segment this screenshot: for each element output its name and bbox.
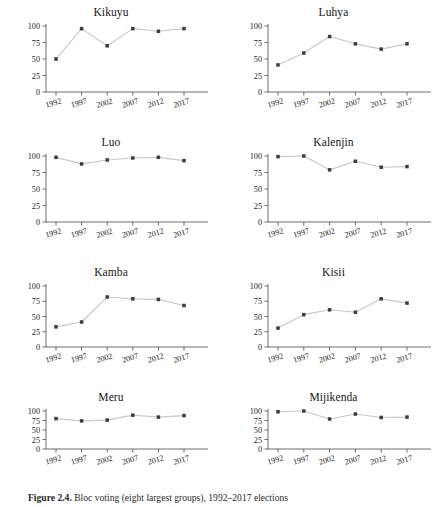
svg-text:1997: 1997 [292, 227, 310, 240]
svg-text:100: 100 [250, 22, 262, 31]
svg-text:2002: 2002 [95, 97, 113, 110]
svg-text:2007: 2007 [344, 352, 362, 365]
chart-meru: 0255075100199219972002200720122017 [0, 385, 222, 487]
svg-text:2007: 2007 [344, 454, 362, 467]
chart-luhya: 0255075100199219972002200720122017 [222, 0, 445, 130]
svg-text:50: 50 [254, 426, 262, 435]
svg-text:2017: 2017 [172, 454, 190, 467]
svg-text:100: 100 [28, 22, 40, 31]
svg-text:0: 0 [36, 88, 40, 97]
svg-text:2017: 2017 [172, 352, 190, 365]
panel-grid: Kikuyu 025507510019921997200220072012201… [0, 0, 445, 487]
svg-text:100: 100 [28, 407, 40, 416]
svg-text:50: 50 [32, 185, 40, 194]
svg-text:2002: 2002 [318, 454, 336, 467]
svg-text:2007: 2007 [344, 97, 362, 110]
svg-text:0: 0 [36, 445, 40, 454]
svg-text:75: 75 [254, 417, 262, 426]
panel-kikuyu: Kikuyu 025507510019921997200220072012201… [0, 0, 222, 130]
svg-text:100: 100 [28, 152, 40, 161]
svg-text:100: 100 [250, 282, 262, 291]
svg-text:2017: 2017 [395, 227, 413, 240]
svg-text:1992: 1992 [266, 97, 284, 110]
figure-container: Kikuyu 025507510019921997200220072012201… [0, 0, 445, 507]
svg-text:25: 25 [32, 202, 40, 211]
panel-kisii: Kisii 0255075100199219972002200720122017 [222, 260, 445, 385]
svg-text:2012: 2012 [369, 97, 387, 110]
svg-text:1992: 1992 [44, 97, 62, 110]
svg-text:2007: 2007 [344, 227, 362, 240]
svg-text:100: 100 [250, 407, 262, 416]
svg-text:1997: 1997 [70, 352, 88, 365]
svg-text:25: 25 [254, 202, 262, 211]
svg-text:25: 25 [254, 72, 262, 81]
svg-text:2002: 2002 [95, 352, 113, 365]
svg-text:100: 100 [250, 152, 262, 161]
svg-text:1992: 1992 [266, 227, 284, 240]
svg-text:50: 50 [32, 426, 40, 435]
chart-luo: 0255075100199219972002200720122017 [0, 130, 222, 260]
svg-text:50: 50 [254, 185, 262, 194]
svg-text:1997: 1997 [70, 454, 88, 467]
svg-text:1992: 1992 [44, 352, 62, 365]
svg-text:50: 50 [254, 313, 262, 322]
svg-text:75: 75 [32, 169, 40, 178]
svg-text:75: 75 [32, 297, 40, 306]
svg-text:75: 75 [32, 417, 40, 426]
svg-text:2017: 2017 [172, 227, 190, 240]
svg-text:75: 75 [32, 39, 40, 48]
svg-text:50: 50 [32, 313, 40, 322]
svg-text:2017: 2017 [395, 97, 413, 110]
svg-text:25: 25 [32, 72, 40, 81]
panel-luhya: Luhya 0255075100199219972002200720122017 [222, 0, 445, 130]
svg-text:2007: 2007 [121, 227, 139, 240]
svg-text:1992: 1992 [44, 227, 62, 240]
svg-text:0: 0 [258, 343, 262, 352]
svg-text:2012: 2012 [369, 454, 387, 467]
svg-text:2002: 2002 [95, 227, 113, 240]
svg-text:1997: 1997 [292, 97, 310, 110]
panel-luo: Luo 0255075100199219972002200720122017 [0, 130, 222, 260]
panel-kamba: Kamba 0255075100199219972002200720122017 [0, 260, 222, 385]
svg-text:50: 50 [254, 55, 262, 64]
svg-text:2007: 2007 [121, 97, 139, 110]
svg-text:0: 0 [36, 343, 40, 352]
chart-kamba: 0255075100199219972002200720122017 [0, 260, 222, 385]
svg-text:50: 50 [32, 55, 40, 64]
svg-text:2012: 2012 [147, 454, 165, 467]
svg-text:2002: 2002 [318, 97, 336, 110]
chart-kikuyu: 0255075100199219972002200720122017 [0, 0, 222, 130]
svg-text:25: 25 [254, 328, 262, 337]
svg-text:0: 0 [36, 218, 40, 227]
svg-text:1992: 1992 [266, 352, 284, 365]
chart-kalenjin: 0255075100199219972002200720122017 [222, 130, 445, 260]
svg-text:2002: 2002 [318, 352, 336, 365]
svg-text:2002: 2002 [95, 454, 113, 467]
svg-text:100: 100 [28, 282, 40, 291]
svg-text:0: 0 [258, 88, 262, 97]
svg-text:25: 25 [32, 328, 40, 337]
panel-kalenjin: Kalenjin 0255075100199219972002200720122… [222, 130, 445, 260]
svg-text:2012: 2012 [369, 352, 387, 365]
svg-text:2007: 2007 [121, 352, 139, 365]
svg-text:25: 25 [254, 436, 262, 445]
svg-text:25: 25 [32, 436, 40, 445]
svg-text:1997: 1997 [292, 454, 310, 467]
svg-text:1992: 1992 [44, 454, 62, 467]
figure-caption: Figure 2.4. Bloc voting (eight largest g… [28, 491, 428, 504]
svg-text:0: 0 [258, 218, 262, 227]
svg-text:2017: 2017 [395, 454, 413, 467]
svg-text:75: 75 [254, 169, 262, 178]
chart-mijikenda: 0255075100199219972002200720122017 [222, 385, 445, 487]
panel-meru: Meru 0255075100199219972002200720122017 [0, 385, 222, 487]
svg-text:1992: 1992 [266, 454, 284, 467]
svg-text:1997: 1997 [70, 97, 88, 110]
svg-text:2007: 2007 [121, 454, 139, 467]
caption-label: Figure 2.4. [28, 492, 72, 503]
svg-text:2002: 2002 [318, 227, 336, 240]
svg-text:1997: 1997 [292, 352, 310, 365]
svg-text:2012: 2012 [369, 227, 387, 240]
svg-text:2012: 2012 [147, 97, 165, 110]
svg-text:75: 75 [254, 297, 262, 306]
caption-text: Bloc voting (eight largest groups), 1992… [74, 492, 288, 503]
